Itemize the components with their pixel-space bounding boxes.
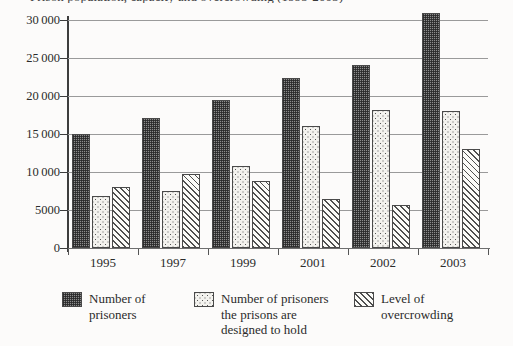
legend-item-label: Level of overcrowding [381,291,453,322]
x-axis-label-2001: 2001 [283,256,343,270]
bar-group-1995 [68,20,138,248]
y-axis-tick [60,58,68,59]
bar-2002-series0 [352,65,370,248]
bar-1999-series0 [212,100,230,248]
bar-1999-series2 [252,181,270,248]
y-axis-tick [60,248,68,249]
y-axis-tick-label: 10 000 [2,166,60,179]
bar-2001-series1 [302,126,320,248]
bar-2003-series2 [462,149,480,248]
chart-title: Prison population, capacity and overcrow… [30,0,490,3]
chart-legend: Number of prisoners Number of prisoners … [62,291,502,343]
legend-item-label: Number of prisoners [89,291,146,322]
y-axis-tick [60,134,68,135]
bar-2001-series2 [322,199,340,248]
y-axis-tick [60,96,68,97]
bar-group-2001 [278,20,348,248]
bar-1997-series1 [162,191,180,248]
plot-area [68,20,488,248]
x-axis-tick [488,249,489,255]
y-axis-tick-label: 20 000 [2,90,60,103]
y-axis-tick [60,210,68,211]
y-axis-tick [60,20,68,21]
x-axis-label-2003: 2003 [423,256,483,270]
bar-2002-series1 [372,110,390,248]
x-axis-label-2002: 2002 [353,256,413,270]
x-axis-label-1999: 1999 [213,256,273,270]
light-dotted-swatch [194,292,214,307]
y-axis-tick-label: 15 000 [2,128,60,141]
bar-group-2002 [348,20,418,248]
y-axis-tick-label: 0 [2,242,60,255]
y-axis-tick [60,172,68,173]
bar-2003-series1 [442,111,460,248]
bar-group-1999 [208,20,278,248]
bar-group-1997 [138,20,208,248]
y-axis-labels: 0500010 00015 00020 00025 00030 000 [0,0,60,260]
x-axis-tick [348,249,349,255]
bar-2003-series0 [422,13,440,248]
x-axis-tick [68,249,69,255]
y-axis-tick-label: 25 000 [2,52,60,65]
legend-item-number-of-prisoners: Number of prisoners [62,291,194,322]
bar-1995-series2 [112,187,130,248]
bar-chart: Prison population, capacity and overcrow… [0,0,513,346]
bar-2002-series2 [392,205,410,248]
bar-1997-series0 [142,118,160,248]
legend-item-designed-capacity: Number of prisoners the prisons are desi… [194,291,354,338]
diagonal-hatch-swatch [354,292,374,307]
bar-group-2003 [418,20,488,248]
bar-2001-series0 [282,78,300,248]
x-axis-label-1995: 1995 [73,256,133,270]
x-axis-label-1997: 1997 [143,256,203,270]
bar-1999-series1 [232,166,250,248]
y-axis-tick-label: 30 000 [2,14,60,27]
x-axis-tick [278,249,279,255]
legend-item-level-of-overcrowding: Level of overcrowding [354,291,484,322]
x-axis-tick [138,249,139,255]
x-axis-tick [208,249,209,255]
legend-item-label: Number of prisoners the prisons are desi… [221,291,329,338]
bar-1995-series1 [92,196,110,248]
bar-1997-series2 [182,174,200,248]
y-axis-tick-label: 5000 [2,204,60,217]
bar-1995-series0 [72,134,90,248]
dark-checker-swatch [62,292,82,307]
x-axis-tick [418,249,419,255]
